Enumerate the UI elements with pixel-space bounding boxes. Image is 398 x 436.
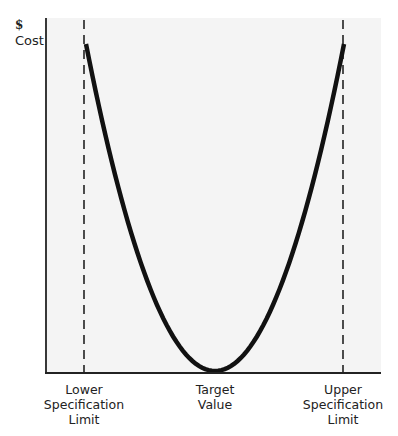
y-axis-label-text: Cost <box>15 33 44 48</box>
chart-svg <box>0 0 398 436</box>
quality-loss-chart: $ Cost Lower Specification Limit Target … <box>0 0 398 436</box>
y-axis-label: $ Cost <box>15 17 44 49</box>
plot-area <box>47 18 381 373</box>
upper-spec-limit-label: Upper Specification Limit <box>283 382 398 427</box>
lower-spec-limit-label: Lower Specification Limit <box>24 382 144 427</box>
dollar-symbol: $ <box>15 17 44 33</box>
target-value-label: Target Value <box>155 382 275 412</box>
